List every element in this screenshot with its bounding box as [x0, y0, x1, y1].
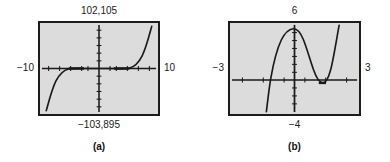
panel-a-ymax-label: 102,105	[0, 5, 195, 17]
figure-container: 102,105 −10 10	[0, 0, 390, 162]
panel-b-xmin-label: −3	[195, 62, 224, 74]
panel-a-caption: (a)	[0, 141, 195, 152]
panel-a-ymin-label: −103,895	[0, 119, 195, 131]
panel-b-curve	[266, 25, 339, 111]
graph-panel-b: 6 −3 3	[195, 0, 390, 162]
panel-a-xmin-label: −10	[0, 62, 34, 74]
panel-a-calculator-screen	[38, 21, 160, 116]
graph-panel-a: 102,105 −10 10	[0, 0, 195, 162]
panel-b-ymax-label: 6	[195, 5, 390, 17]
panel-b-ymin-label: −4	[195, 119, 390, 131]
panel-b-xmax-label: 3	[365, 62, 390, 74]
panel-a-xmax-label: 10	[164, 62, 195, 74]
panel-b-caption: (b)	[195, 141, 390, 152]
panel-b-calculator-screen	[228, 21, 361, 116]
panel-b-plot	[230, 23, 359, 114]
panel-a-plot	[40, 23, 158, 114]
